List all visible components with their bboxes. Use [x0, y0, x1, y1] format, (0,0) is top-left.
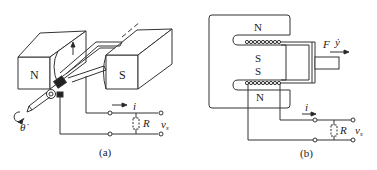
magnet-yoke — [209, 15, 290, 108]
circuit-b-wires — [248, 84, 355, 142]
pole-bottom-n-label: N — [256, 91, 264, 103]
velocity-arrow-icon — [330, 50, 349, 54]
voltage-b-label: vs — [355, 124, 363, 138]
resistor-b-label: R — [339, 124, 347, 136]
coil-top — [245, 40, 280, 43]
caption-b: (b) — [300, 147, 313, 160]
diagram-canvas: N S i R vs θ̇ (a) — [0, 0, 377, 170]
pole-mid-s-upper-label: S — [255, 52, 261, 64]
voltage-label: vs — [161, 118, 169, 132]
resistor-label: R — [142, 117, 150, 129]
caption-a: (a) — [99, 146, 112, 159]
current-label: i — [133, 100, 136, 112]
magnet-s-label: S — [119, 68, 126, 82]
figure-b — [209, 15, 355, 142]
coil-bottom — [245, 81, 280, 84]
magnet-s-block — [104, 29, 173, 89]
magnet-n-label: N — [30, 68, 39, 82]
pole-mid-s-lower-label: S — [255, 65, 261, 77]
force-label: F — [322, 38, 330, 50]
current-b-label: i — [305, 101, 308, 113]
pole-top-n-label: N — [254, 21, 262, 33]
plunger-rod — [315, 57, 339, 69]
velocity-label: ẏ — [334, 36, 340, 48]
angular-velocity-label: θ̇ — [20, 121, 29, 133]
current-arrow-icon — [112, 103, 127, 107]
